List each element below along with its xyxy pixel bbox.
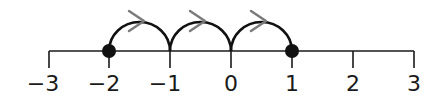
tick-label: 0 [224, 71, 238, 96]
jump-arc-neg2-to-neg1 [109, 22, 170, 51]
point-neg2 [102, 44, 116, 58]
tick-label: 1 [285, 71, 299, 96]
jump-arc-0-to-1 [231, 22, 292, 51]
tick-label: −2 [88, 71, 120, 96]
point-1 [285, 44, 299, 58]
tick-label: 2 [346, 71, 360, 96]
tick-label: −3 [27, 71, 59, 96]
tick-label: −1 [149, 71, 181, 96]
tick-label: 3 [407, 71, 421, 96]
number-line-diagram: −3 −2 −1 0 1 2 3 [0, 0, 440, 108]
tick-labels: −3 −2 −1 0 1 2 3 [27, 71, 421, 96]
jump-arc-neg1-to-0 [170, 22, 231, 51]
